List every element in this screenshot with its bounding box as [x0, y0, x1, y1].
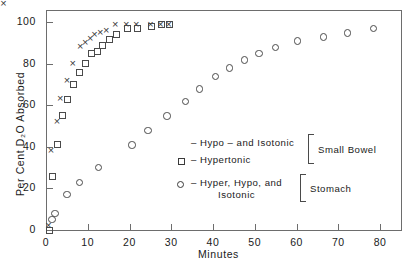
bracket-stomach [300, 174, 306, 202]
x-ticklabel-70: 70 [318, 236, 358, 248]
data-point-x [57, 95, 64, 102]
legend-label-hypertonic: – Hypertonic [191, 154, 251, 165]
data-point-circle [95, 164, 102, 171]
data-point-circle [212, 73, 219, 80]
x-tick-80 [380, 224, 381, 231]
data-point-square [82, 60, 89, 67]
x-tick-40 [213, 224, 214, 231]
data-point-square [113, 31, 120, 38]
group-label-small-bowel: Small Bowel [318, 144, 376, 155]
data-point-square [76, 69, 83, 76]
data-point-circle [241, 56, 248, 63]
legend-label-hypo-isotonic: – Hypo – and Isotonic [191, 137, 294, 148]
x-ticklabel-20: 20 [110, 236, 150, 248]
y-ticklabel-0: 0 [0, 223, 36, 235]
data-point-circle [48, 216, 55, 223]
plot-frame-top [46, 10, 402, 11]
data-point-circle [370, 25, 377, 32]
y-tick-80 [46, 64, 53, 65]
data-point-circle [51, 210, 58, 217]
data-point-square [124, 25, 131, 32]
data-point-square [46, 227, 53, 234]
data-point-x [112, 21, 119, 28]
legend-symbol-circle [177, 181, 184, 188]
y-tick-60 [46, 105, 53, 106]
data-point-circle [255, 50, 262, 57]
x-axis-label: Minutes [198, 248, 239, 260]
bracket-small-bowel [308, 134, 314, 164]
data-point-circle [163, 112, 170, 119]
x-tick-50 [255, 224, 256, 231]
y-tick-20 [46, 188, 53, 189]
legend-dash-3: – [191, 177, 197, 188]
legend-text-2: Hypertonic [200, 154, 251, 165]
data-point-square [94, 48, 101, 55]
data-point-square [64, 96, 71, 103]
data-point-x [103, 27, 110, 34]
x-ticklabel-30: 30 [151, 236, 191, 248]
data-point-circle [196, 85, 203, 92]
data-point-circle [294, 37, 301, 44]
legend-text-3: Hyper, Hypo, and [200, 177, 282, 188]
y-ticklabel-100: 100 [0, 15, 36, 27]
data-point-circle [76, 179, 83, 186]
legend-symbol-x [0, 0, 7, 7]
x-ticklabel-0: 0 [26, 236, 66, 248]
legend-label-hyper-hypo-isotonic-line2: Isotonic [218, 189, 255, 200]
plot-frame-right [401, 10, 402, 231]
chart-figure: 020406080100 01020304050607080 Per Cent … [0, 0, 415, 266]
x-ticklabel-50: 50 [235, 236, 275, 248]
y-axis-label: Per Cent D₂O Absorbed [14, 72, 26, 196]
data-point-square [54, 141, 61, 148]
data-point-square [59, 112, 66, 119]
data-point-circle [144, 127, 151, 134]
x-tick-10 [88, 224, 89, 231]
data-point-circle [226, 64, 233, 71]
data-point-circle [63, 191, 70, 198]
y-axis-line [46, 10, 47, 231]
data-point-circle [128, 141, 135, 148]
data-point-square [70, 81, 77, 88]
y-ticklabel-80: 80 [0, 57, 36, 69]
legend-text-1: Hypo – and Isotonic [200, 137, 294, 148]
data-point-square [134, 25, 141, 32]
x-tick-60 [297, 224, 298, 231]
y-tick-100 [46, 22, 53, 23]
data-point-circle [182, 98, 189, 105]
x-tick-20 [130, 224, 131, 231]
x-ticklabel-10: 10 [68, 236, 108, 248]
data-point-square [148, 23, 155, 30]
x-axis-line [46, 230, 402, 231]
x-ticklabel-80: 80 [360, 236, 400, 248]
data-point-square [49, 173, 56, 180]
data-point-circle [272, 44, 279, 51]
x-tick-30 [171, 224, 172, 231]
data-point-circle [320, 33, 327, 40]
x-tick-70 [338, 224, 339, 231]
data-point-x [69, 60, 76, 67]
legend-label-hyper-hypo-isotonic: – Hyper, Hypo, and [191, 177, 282, 188]
legend-dash-1: – [191, 137, 197, 148]
x-ticklabel-40: 40 [193, 236, 233, 248]
legend-symbol-square [178, 158, 185, 165]
data-point-circle [344, 29, 351, 36]
data-point-square [99, 42, 106, 49]
group-label-stomach: Stomach [310, 183, 351, 194]
data-point-square [166, 21, 173, 28]
x-ticklabel-60: 60 [277, 236, 317, 248]
data-point-square [158, 21, 165, 28]
legend-dash-2: – [191, 154, 197, 165]
